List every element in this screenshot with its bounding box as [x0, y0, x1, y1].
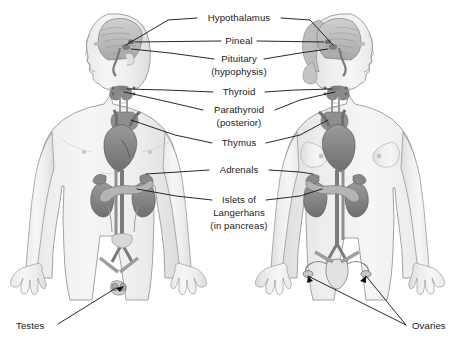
label-parathyroid: Parathyroid: [214, 104, 264, 115]
label-parathyroid-sub: (posterior): [217, 117, 262, 128]
label-thyroid: Thyroid: [223, 86, 256, 97]
label-ovaries: Ovaries: [412, 320, 446, 331]
endocrine-diagram: Hypothalamus Pineal Pituitary (hypophysi…: [0, 0, 459, 361]
label-pineal: Pineal: [225, 35, 252, 46]
label-adrenals: Adrenals: [220, 164, 259, 175]
label-pituitary: Pituitary: [221, 53, 257, 64]
female-figure: [255, 14, 444, 300]
label-islets-line1: Islets of: [222, 194, 256, 205]
male-figure: [10, 14, 206, 300]
label-pituitary-sub: (hypophysis): [211, 66, 267, 77]
label-thymus: Thymus: [222, 137, 257, 148]
label-islets-line3: (in pancreas): [210, 220, 267, 231]
label-islets-line2: Langerhans: [213, 207, 265, 218]
label-testes: Testes: [16, 320, 44, 331]
label-hypothalamus: Hypothalamus: [208, 12, 271, 23]
